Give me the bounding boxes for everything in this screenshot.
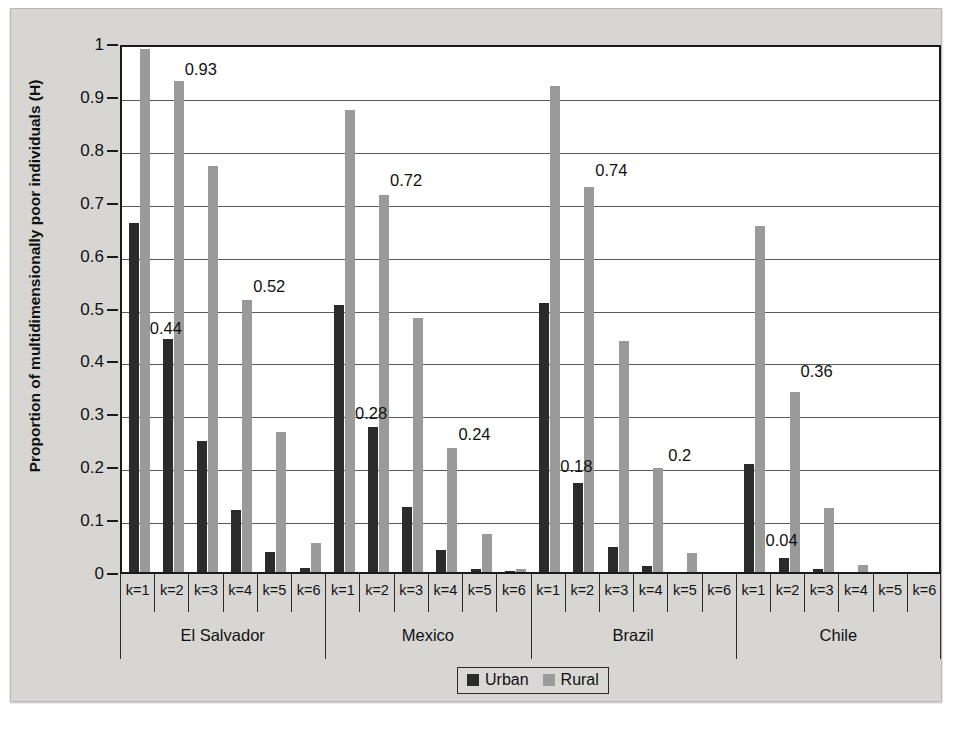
bar-urban: [436, 550, 446, 572]
x-axis-tick-cell: k=3: [804, 574, 838, 612]
y-axis-tick-mark: [107, 573, 118, 575]
y-axis-title: Proportion of multidimensionally poor in…: [26, 26, 44, 526]
y-axis-tick-mark: [107, 520, 118, 522]
x-axis-tick-label: k=4: [224, 582, 257, 598]
bar-value-label: 0.28: [355, 404, 387, 423]
legend-label-rural: Rural: [561, 671, 599, 689]
y-axis-tick-label: 0.9: [80, 88, 104, 108]
legend-item-rural: Rural: [543, 671, 599, 689]
x-axis-tick-label: k=5: [874, 582, 907, 598]
x-axis-tick-cell: k=6: [496, 574, 530, 612]
bar-urban: [779, 558, 789, 572]
x-axis-group-label: Chile: [820, 626, 858, 645]
x-axis-tick-cell: k=2: [565, 574, 599, 612]
bar-urban: [642, 566, 652, 572]
bar-urban: [608, 547, 618, 572]
bar-urban: [539, 303, 549, 572]
bar-value-label: 0.18: [560, 457, 592, 476]
x-axis-tick-cell: k=2: [359, 574, 393, 612]
x-axis-tick-label: k=5: [463, 582, 496, 598]
x-axis-tick-cell: k=3: [394, 574, 428, 612]
y-axis-tick-mark: [107, 203, 118, 205]
x-axis-group-label: Brazil: [612, 626, 653, 645]
x-axis-tick-cell: k=4: [633, 574, 667, 612]
bar-urban: [368, 427, 378, 572]
scanned-page-panel: 00.10.20.30.40.50.60.70.80.91 Proportion…: [10, 8, 942, 702]
x-axis-tick-cell: k=4: [838, 574, 872, 612]
x-axis-tick-label: k=1: [326, 582, 359, 598]
x-axis-tick-label: k=3: [600, 582, 633, 598]
bar-rural: [208, 166, 218, 572]
bar-urban: [300, 568, 310, 572]
x-axis-group-label: El Salvador: [180, 626, 264, 645]
bar-value-label: 0.72: [390, 171, 422, 190]
bar-urban: [813, 569, 823, 572]
bar-rural: [687, 553, 697, 572]
y-axis-tick-label: 1: [95, 35, 104, 55]
bar-rural: [755, 226, 765, 572]
x-axis-group-label: Mexico: [402, 626, 454, 645]
legend-item-urban: Urban: [467, 671, 529, 689]
bar-value-label: 0.24: [458, 425, 490, 444]
bar-value-label: 0.44: [150, 319, 182, 338]
x-axis-tick-cell: k=4: [223, 574, 257, 612]
x-axis-tick-cell: k=4: [428, 574, 462, 612]
x-axis-tick-cell: k=6: [907, 574, 941, 612]
bar-urban: [197, 441, 207, 572]
bar-urban: [505, 571, 515, 573]
bar-value-label: 0.36: [801, 362, 833, 381]
x-axis-tick-label: k=2: [360, 582, 393, 598]
x-axis-tick-label: k=1: [737, 582, 770, 598]
y-axis-tick-mark: [107, 414, 118, 416]
chart-figure: 00.10.20.30.40.50.60.70.80.91 Proportion…: [0, 0, 957, 733]
x-axis-tick-label: k=6: [703, 582, 736, 598]
bar-rural: [311, 543, 321, 572]
y-axis-tick-label: 0.8: [80, 141, 104, 161]
bar-rural: [653, 468, 663, 572]
legend-swatch-urban-icon: [467, 674, 479, 686]
bar-urban: [744, 464, 754, 572]
x-axis-tick-cell: k=1: [120, 574, 154, 612]
x-axis-group-separator: [120, 574, 121, 659]
y-axis-tick-mark: [107, 150, 118, 152]
bar-rural: [140, 49, 150, 572]
y-axis-tick-label: 0.4: [80, 352, 104, 372]
x-axis-tick-label: k=2: [155, 582, 188, 598]
y-axis-tick-label: 0.7: [80, 194, 104, 214]
x-axis-tick-cell: k=3: [188, 574, 222, 612]
x-axis-tick-label: k=5: [668, 582, 701, 598]
bar-urban: [129, 223, 139, 572]
bar-rural: [824, 508, 834, 572]
bar-value-label: 0.93: [185, 60, 217, 79]
gridline: [122, 206, 939, 207]
x-axis-tick-cell: k=5: [257, 574, 291, 612]
x-axis-tick-cell: k=5: [667, 574, 701, 612]
chart-legend: Urban Rural: [457, 667, 609, 694]
x-axis-group-separator: [940, 574, 941, 659]
bar-rural: [413, 318, 423, 572]
y-axis-tick-mark: [107, 361, 118, 363]
bar-rural: [619, 341, 629, 572]
x-axis-tick-cell: k=2: [154, 574, 188, 612]
x-axis-tick-label: k=1: [532, 582, 565, 598]
y-axis-tick-label: 0.6: [80, 247, 104, 267]
x-axis-tick-label: k=2: [566, 582, 599, 598]
y-axis-tick-label: 0.5: [80, 300, 104, 320]
x-axis-group-separator: [736, 574, 737, 659]
x-axis-tick-label: k=4: [634, 582, 667, 598]
x-axis-tick-label: k=1: [121, 582, 154, 598]
x-axis-tick-cell: k=2: [770, 574, 804, 612]
x-axis-tick-cell: k=6: [702, 574, 736, 612]
y-axis-tick-label: 0: [95, 564, 104, 584]
bar-urban: [265, 552, 275, 572]
bar-urban: [334, 305, 344, 572]
y-axis-tick-label: 0.3: [80, 405, 104, 425]
x-axis-group-separator: [325, 574, 326, 659]
bar-urban: [573, 483, 583, 572]
y-axis-tick-mark: [107, 309, 118, 311]
x-axis-tick-label: k=3: [805, 582, 838, 598]
y-axis-tick-mark: [107, 467, 118, 469]
y-axis-tick-mark: [107, 44, 118, 46]
x-axis-tick-label: k=6: [292, 582, 325, 598]
x-axis-tick-cell: k=3: [599, 574, 633, 612]
